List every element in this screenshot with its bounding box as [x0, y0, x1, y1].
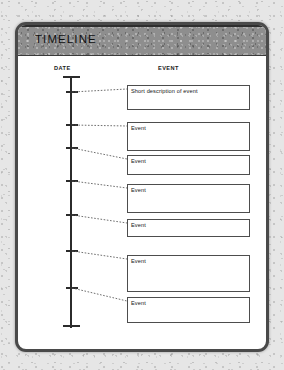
- axis-cap-top: [63, 76, 80, 78]
- event-label: Event: [131, 158, 146, 164]
- event-label: Event: [131, 187, 146, 193]
- event-label: Event: [131, 125, 146, 131]
- event-connector: [72, 125, 127, 126]
- axis-tick: [66, 91, 78, 93]
- event-label: Event: [131, 222, 146, 228]
- event-box[interactable]: Event: [127, 255, 250, 292]
- axis-cap-bottom: [63, 325, 80, 327]
- document-frame: TIMELINE DATE EVENT Short description of…: [15, 22, 269, 352]
- event-box[interactable]: Event: [127, 297, 250, 323]
- event-connector: [72, 251, 127, 259]
- event-box[interactable]: Event: [127, 219, 250, 237]
- axis-tick: [66, 287, 78, 289]
- axis-tick: [66, 250, 78, 252]
- axis-tick: [66, 147, 78, 149]
- axis-tick: [66, 214, 78, 216]
- column-header-date: DATE: [54, 65, 71, 71]
- event-box[interactable]: Short description of event: [127, 85, 250, 110]
- event-box[interactable]: Event: [127, 122, 250, 151]
- axis-tick: [66, 124, 78, 126]
- event-connector: [72, 148, 127, 159]
- event-box[interactable]: Event: [127, 155, 250, 175]
- event-connector: [72, 215, 127, 223]
- column-header-event: EVENT: [158, 65, 179, 71]
- title-band: TIMELINE: [18, 25, 266, 56]
- event-label: Event: [131, 300, 146, 306]
- event-connector: [72, 181, 127, 188]
- event-label: Event: [131, 258, 146, 264]
- event-connector: [72, 89, 127, 92]
- axis-tick: [66, 180, 78, 182]
- event-connector: [72, 288, 127, 301]
- event-box[interactable]: Event: [127, 184, 250, 213]
- event-label: Short description of event: [131, 88, 198, 94]
- axis-line: [70, 76, 72, 328]
- page-title: TIMELINE: [35, 33, 97, 45]
